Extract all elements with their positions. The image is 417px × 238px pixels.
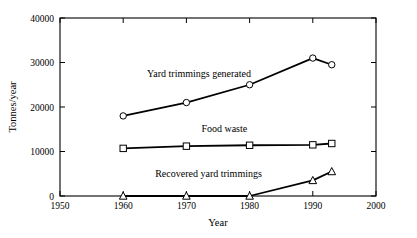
x-tick-label: 1950 xyxy=(51,201,70,211)
data-point-circle xyxy=(246,82,252,88)
data-point-square xyxy=(329,140,335,146)
data-point-square xyxy=(310,142,316,148)
x-tick-label: 1990 xyxy=(303,201,322,211)
data-point-square xyxy=(183,143,189,149)
chart-container: 1950196019701980199020000100002000030000… xyxy=(0,0,417,238)
x-axis-title: Year xyxy=(208,217,228,228)
data-point-circle xyxy=(120,113,126,119)
data-point-square xyxy=(120,145,126,151)
y-tick-label: 30000 xyxy=(30,58,54,68)
data-point-square xyxy=(246,142,252,148)
line-chart: 1950196019701980199020000100002000030000… xyxy=(0,0,417,238)
y-tick-label: 40000 xyxy=(30,14,54,24)
data-point-circle xyxy=(183,99,189,105)
series-label: Food waste xyxy=(201,123,247,134)
data-point-triangle xyxy=(328,168,336,175)
x-tick-label: 1980 xyxy=(240,201,259,211)
y-tick-label: 0 xyxy=(49,192,54,202)
series-line xyxy=(123,143,332,148)
x-tick-label: 2000 xyxy=(367,201,386,211)
series-label: Recovered yard trimmings xyxy=(155,168,262,179)
series-line xyxy=(123,58,332,116)
x-tick-label: 1970 xyxy=(177,201,196,211)
y-tick-label: 20000 xyxy=(30,103,54,113)
y-tick-label: 10000 xyxy=(30,147,54,157)
data-point-circle xyxy=(310,55,316,61)
series-label: Yard trimmings generated xyxy=(147,68,251,79)
x-tick-label: 1960 xyxy=(114,201,133,211)
y-axis-title: Tonnes/year xyxy=(7,81,18,133)
data-point-circle xyxy=(329,62,335,68)
